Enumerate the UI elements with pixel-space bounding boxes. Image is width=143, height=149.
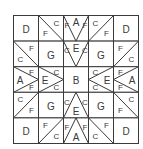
patch-label: C [129,55,135,64]
quilt-cell-r2-c2: B [64,67,89,93]
patch-label: A [129,75,136,86]
patch-label: F [118,44,123,53]
patch-label: G [97,101,105,112]
patch-label: F [104,121,109,130]
patch-label: F [118,83,123,92]
quilt-cell-r1-c0: CF [14,41,39,67]
patch-label: F [43,121,48,130]
quilt-cell-r4-c3: CF [89,118,114,144]
patch-label: C [54,19,60,28]
patch-label: G [47,50,55,61]
patch-label: C [54,83,60,92]
quilt-cell-r1-c3: G [89,41,114,67]
patch-label: F [65,21,70,30]
quilt-cell-r1-c1: G [39,41,64,67]
patch-label: C [93,132,99,141]
quilt-cell-r4-c1: FC [39,118,64,144]
patch-label: B [73,75,80,86]
patch-label: C [64,98,70,107]
quilt-cell-r2-c3: CEC [89,67,114,93]
quilt-cell-r0-c2: FAF [64,16,89,42]
patch-label: E [42,75,49,86]
patch-label: D [22,126,29,137]
quilt-cell-r1-c4: FC [114,41,139,67]
patch-label: F [118,106,123,115]
patch-label: C [93,19,99,28]
quilt-cell-r3-c3: G [89,92,114,118]
quilt-cell-r3-c2: CEC [64,92,89,118]
patch-label: F [29,106,34,115]
quilt-block-diagram: DFCFAFCFDCFGCECGFCFAFCECBCECFAFCFGCECGFC… [0,0,143,149]
patch-label: C [64,46,70,55]
patch-label: D [122,24,129,35]
quilt-cell-r1-c2: CEC [64,41,89,67]
patch-label: G [47,101,55,112]
patch-label: C [82,98,88,107]
patch-label: F [104,29,109,38]
patch-label: C [54,132,60,141]
quilt-cell-r0-c0: D [14,16,39,42]
quilt-cell-r0-c1: FC [39,16,64,42]
patch-label: E [104,75,111,86]
patch-label: E [73,106,80,117]
quilt-cell-r2-c4: FAF [114,67,139,93]
quilt-cell-r4-c0: D [14,118,39,144]
patch-label: F [118,68,123,77]
patch-label: A [17,75,24,86]
quilt-cell-r0-c3: CF [89,16,114,42]
patch-label: C [93,83,99,92]
patch-label: C [129,95,135,104]
patch-label: C [18,55,24,64]
quilt-cell-r4-c2: FAF [64,118,89,144]
patch-label: F [65,123,70,132]
patch-label: C [82,46,88,55]
quilt-grid: DFCFAFCFDCFGCECGFCFAFCECBCECFAFCFGCECGFC… [14,16,139,144]
patch-label: F [83,21,88,30]
quilt-cell-r3-c4: FC [114,92,139,118]
patch-label: D [122,126,129,137]
patch-label: F [29,68,34,77]
patch-label: C [54,68,60,77]
patch-label: A [73,132,80,143]
patch-label: C [18,95,24,104]
patch-label: F [29,44,34,53]
patch-label: C [93,68,99,77]
patch-label: F [83,123,88,132]
patch-label: G [97,50,105,61]
patch-label: F [29,83,34,92]
patch-label: E [73,43,80,54]
quilt-cell-r2-c1: CEC [39,67,64,93]
quilt-cell-r3-c1: G [39,92,64,118]
patch-label: A [73,17,80,28]
patch-label: D [22,24,29,35]
quilt-cell-r3-c0: CF [14,92,39,118]
quilt-cell-r0-c4: D [114,16,139,42]
quilt-cell-r2-c0: FAF [14,67,39,93]
patch-label: F [43,29,48,38]
quilt-cell-r4-c4: D [114,118,139,144]
